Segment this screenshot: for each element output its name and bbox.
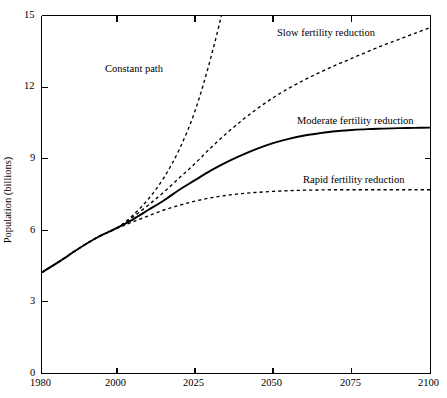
y-tick-label-12: 12 [24,81,35,92]
y-tick-label-9: 9 [30,153,35,164]
y-tick-label-15: 15 [24,10,35,21]
annotation-rapid-fertility: Rapid fertility reduction [303,175,404,186]
x-tick-label-1980: 1980 [30,378,51,389]
annotation-moderate-fertility: Moderate fertility reduction [297,116,414,127]
x-tick-marks [117,16,431,374]
population-projection-chart: Population (billions) 15 12 9 6 3 0 1980… [0,0,447,398]
x-tick-label-2025: 2025 [183,378,204,389]
series-rapid-fertility-reduction [42,190,431,273]
y-axis-title: Population (billions) [2,156,14,243]
annotation-constant-path: Constant path [105,64,163,75]
chart-canvas: Population (billions) [0,0,447,398]
annotation-slow-fertility: Slow fertility reduction [277,28,375,39]
x-tick-label-2100: 2100 [418,378,439,389]
x-tick-label-2050: 2050 [261,378,282,389]
y-tick-marks [42,16,48,374]
y-tick-label-3: 3 [30,296,35,307]
y-tick-label-6: 6 [30,225,35,236]
x-tick-label-2000: 2000 [105,378,126,389]
series-layer [42,0,431,273]
x-tick-label-2075: 2075 [340,378,361,389]
series-constant-path [42,0,258,273]
series-moderate-fertility-reduction [42,128,431,273]
